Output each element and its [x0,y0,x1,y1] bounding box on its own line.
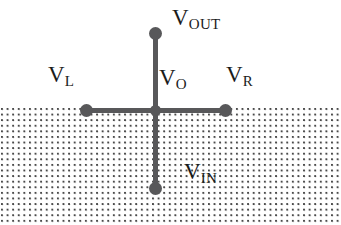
v-in-label-base: V [184,159,201,184]
wire-top-vertical [153,33,158,111]
v-left-label-subscript: L [65,73,74,89]
v-right-label-base: V [226,62,243,87]
circuit-diagram-canvas: VOUT VL VO VR VIN [0,0,341,225]
wire-left-horizontal [86,108,156,113]
v-in-label: VIN [184,160,217,183]
v-right-label-subscript: R [243,73,253,89]
left-terminal-node [80,104,93,117]
center-junction-node [150,105,161,116]
v-left-label: VL [48,63,74,86]
right-terminal-node [219,104,232,117]
v-o-label: VO [159,66,187,89]
v-out-label-base: V [172,5,189,30]
v-in-label-subscript: IN [201,170,217,186]
stippled-region [0,107,341,225]
v-o-label-base: V [159,65,176,90]
wire-bottom-vertical [153,110,158,189]
v-o-label-subscript: O [176,76,187,92]
bottom-terminal-node [149,182,162,195]
top-terminal-node [149,27,162,40]
v-right-label: VR [226,63,253,86]
v-left-label-base: V [48,62,65,87]
v-out-label: VOUT [172,6,221,29]
v-out-label-subscript: OUT [189,16,221,32]
wire-right-horizontal [155,108,226,113]
